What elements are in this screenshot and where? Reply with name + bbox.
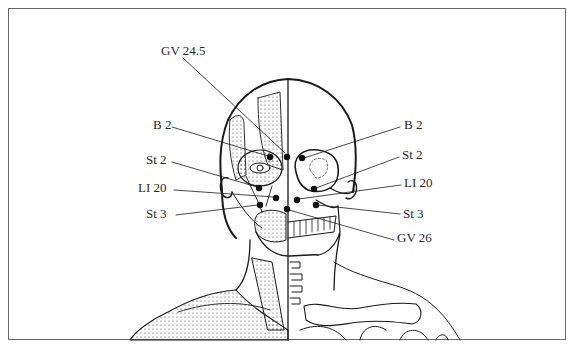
head-illustration [0, 0, 574, 349]
point-b2-left [267, 154, 273, 160]
label-gv24-5: GV 24.5 [161, 44, 206, 57]
point-li20-left [273, 195, 279, 201]
label-st2-left: St 2 [146, 153, 167, 166]
point-gv24-5 [284, 154, 290, 160]
label-li20-right: LI 20 [404, 176, 433, 189]
label-st2-right: St 2 [402, 148, 423, 161]
label-b2-right: B 2 [404, 118, 422, 131]
label-gv26: GV 26 [397, 231, 432, 244]
label-st3-right: St 3 [403, 207, 424, 220]
point-b2-right [299, 155, 305, 161]
point-st3-right [313, 202, 319, 208]
point-st2-left [256, 185, 262, 191]
point-li20-right [294, 197, 300, 203]
point-gv26 [284, 206, 290, 212]
label-st3-left: St 3 [146, 207, 167, 220]
label-b2-left: B 2 [153, 118, 171, 131]
label-li20-left: LI 20 [138, 181, 167, 194]
point-st2-right [311, 186, 317, 192]
point-st3-left [257, 202, 263, 208]
